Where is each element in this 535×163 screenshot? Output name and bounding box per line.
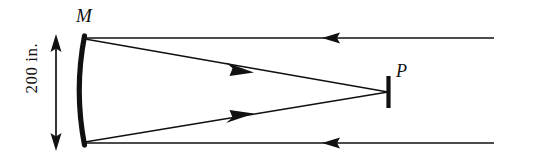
reflected-ray-top-arrowhead bbox=[226, 63, 254, 77]
reflected-ray-top-line bbox=[85, 39, 388, 92]
incoming-ray-top bbox=[86, 33, 494, 44]
incoming-ray-bottom bbox=[86, 138, 494, 149]
aperture-dimension-arrow bbox=[51, 34, 62, 151]
concave-mirror-arc bbox=[79, 36, 84, 145]
reflected-ray-bottom-arrowhead bbox=[226, 110, 254, 123]
optics-ray-diagram: M P 200 in. bbox=[0, 0, 535, 163]
reflected-ray-top bbox=[85, 39, 388, 92]
focal-point-label: P bbox=[396, 62, 407, 80]
reflected-ray-bottom bbox=[85, 92, 388, 142]
mirror-label: M bbox=[76, 6, 92, 25]
dimension-label: 200 in. bbox=[22, 32, 42, 104]
